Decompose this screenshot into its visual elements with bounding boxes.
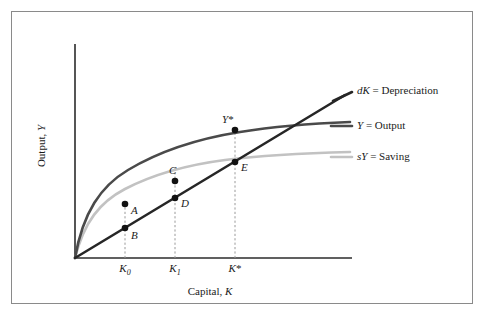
legend-saving-symbol: sY: [357, 150, 367, 162]
x-tick-k1: K1: [155, 262, 195, 277]
output-curve: [75, 122, 350, 258]
point-ystar-asterisk: *: [228, 113, 234, 125]
x-tick-kstar-asterisk: *: [236, 262, 242, 274]
y-axis-title: Output, Y: [35, 101, 47, 191]
marker-point-a: [122, 201, 129, 208]
legend-swatch-depreciation: [333, 92, 352, 101]
point-c-label: C: [169, 164, 176, 176]
x-tick-kstar-symbol: K: [229, 262, 236, 274]
x-tick-k1-symbol: K: [169, 262, 176, 274]
marker-point-b: [122, 225, 129, 232]
x-tick-kstar: K*: [215, 262, 255, 274]
legend-item-depreciation: dK = Depreciation: [357, 84, 438, 96]
x-axis-title: Capital, K: [150, 285, 270, 297]
x-tick-k0: K0: [105, 262, 145, 277]
legend-item-saving: sY = Saving: [357, 150, 410, 162]
point-d-label: D: [181, 197, 189, 209]
legend-depreciation-text: = Depreciation: [370, 84, 439, 96]
marker-point-d: [172, 195, 179, 202]
legend-saving-text: = Saving: [367, 150, 409, 162]
point-b-label: B: [131, 229, 138, 241]
marker-point-ystar: [232, 127, 239, 134]
x-axis-title-symbol: K: [225, 285, 232, 297]
legend-depreciation-symbol: dK: [357, 84, 370, 96]
x-tick-k1-subscript: 1: [177, 268, 181, 277]
x-tick-k0-subscript: 0: [127, 268, 131, 277]
x-axis-title-prefix: Capital,: [188, 285, 225, 297]
legend-output-text: = Output: [363, 119, 405, 131]
point-ystar-label: Y*: [222, 113, 234, 125]
y-axis-title-prefix: Output,: [35, 131, 47, 167]
y-axis-title-symbol: Y: [35, 125, 47, 131]
point-a-label: A: [131, 204, 138, 216]
saving-curve: [75, 152, 350, 258]
legend-item-output: Y = Output: [357, 119, 405, 131]
depreciation-line: [75, 95, 345, 258]
marker-point-e: [232, 159, 239, 166]
point-e-label: E: [241, 161, 248, 173]
x-tick-k0-symbol: K: [119, 262, 126, 274]
marker-point-c: [172, 178, 179, 185]
